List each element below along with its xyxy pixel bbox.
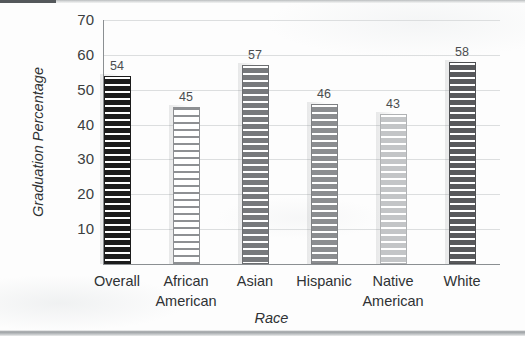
bar [311,104,338,264]
bar [104,76,131,264]
bar-value-label: 57 [225,49,285,62]
plot-area: 544557464358 [103,20,500,264]
y-axis-tick-label: 20 [54,186,94,201]
scan-edge-top-corner [0,0,56,3]
x-axis-tick-label-line2: American [338,292,448,312]
bar-value-label: 46 [294,88,354,101]
y-axis-title-host: Graduation Percentage [8,30,48,260]
bar-value-label: 58 [432,46,492,59]
x-axis-tick-label: White [407,272,517,292]
x-axis-tick-label-line1: Asian [237,273,273,289]
bar-value-label: 45 [156,91,216,104]
scan-edge-top [0,0,525,3]
bar [380,114,407,264]
x-axis-line [103,264,500,265]
y-axis-tick-label: 70 [54,12,94,27]
y-axis-tick-label: 10 [54,221,94,236]
gridline [103,194,500,195]
y-axis-title: Graduation Percentage [30,52,46,232]
chart-screenshot: Graduation Percentage 70605040302010 544… [0,0,525,344]
bar [242,65,269,264]
gridline [103,20,500,21]
bar-value-label: 43 [363,98,423,111]
bar-value-label: 54 [87,60,147,73]
gridline [103,229,500,230]
y-axis-tick-label: 30 [54,151,94,166]
gridline [103,125,500,126]
x-axis-tick-label-line1: White [443,273,480,289]
x-axis-tick-label-line2: American [131,292,241,312]
gridline [103,159,500,160]
y-axis-tick-label: 40 [54,117,94,132]
bar [173,107,200,264]
x-axis-title: Race [255,310,289,326]
scan-edge-bottom-white [0,336,525,344]
x-axis-title-row: Race [0,310,525,326]
y-axis-tick-labels: 70605040302010 [48,20,94,264]
bar [449,62,476,264]
y-axis-tick-label: 50 [54,82,94,97]
